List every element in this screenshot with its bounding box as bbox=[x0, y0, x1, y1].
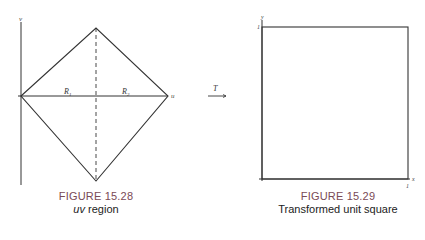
region-label-r2: R2 bbox=[121, 87, 130, 97]
u-axis-label: u bbox=[171, 92, 175, 100]
x-tick-label: 1 bbox=[406, 183, 409, 189]
transform-arrow: T bbox=[208, 84, 226, 98]
v-axis-label: v bbox=[19, 15, 23, 23]
y-tick-label: 1 bbox=[257, 24, 260, 30]
y-axis-label: y bbox=[260, 14, 264, 20]
unit-square-figure: y 1 x 1 bbox=[257, 14, 415, 189]
caption-left: FIGURE 15.28 uv region bbox=[46, 190, 146, 216]
x-axis-label: x bbox=[411, 176, 415, 182]
unit-square bbox=[262, 27, 408, 179]
caption-left-number: FIGURE 15.28 bbox=[46, 190, 146, 203]
caption-right: FIGURE 15.29 Transformed unit square bbox=[268, 190, 408, 216]
diamond-region bbox=[21, 28, 168, 181]
caption-right-number: FIGURE 15.29 bbox=[268, 190, 408, 203]
region-label-r1: R1 bbox=[63, 87, 71, 97]
caption-left-title: uv region bbox=[46, 203, 146, 216]
uv-region-figure: v u R1 R2 bbox=[18, 15, 175, 185]
caption-right-title: Transformed unit square bbox=[268, 203, 408, 216]
transform-label: T bbox=[213, 84, 218, 93]
